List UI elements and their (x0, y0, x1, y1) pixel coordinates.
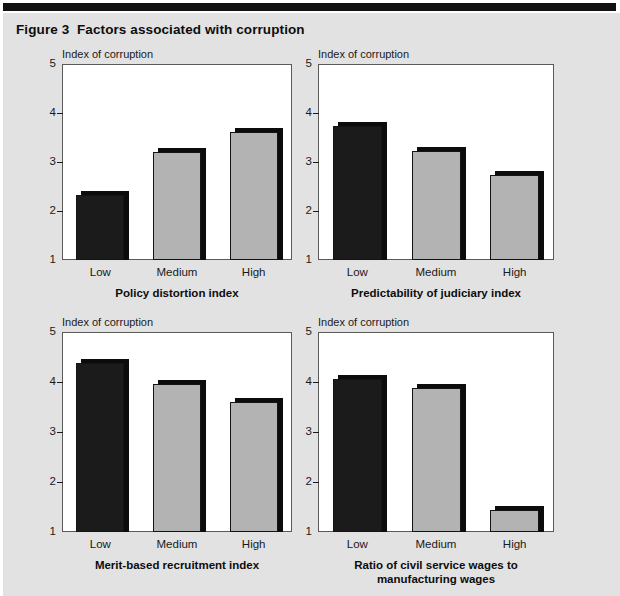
y-tick-label: 3 (290, 155, 312, 167)
y-tick-mark (313, 162, 319, 163)
figure-page: Figure 3 Factors associated with corrupt… (0, 0, 620, 596)
chart-civil-service-wage-ratio: Index of corruption12345LowMediumHighRat… (288, 316, 554, 576)
y-tick-label: 1 (290, 525, 312, 537)
y-tick-mark (57, 382, 63, 383)
x-tick-label: Low (62, 266, 139, 278)
x-tick-label: High (215, 538, 292, 550)
bar-low (76, 195, 124, 260)
x-tick-label: Low (318, 266, 397, 278)
chart-title: Merit-based recruitment index (62, 558, 292, 572)
page-title: Figure 3 Factors associated with corrupt… (16, 22, 305, 37)
y-tick-label: 4 (34, 106, 56, 118)
y-tick-mark (313, 482, 319, 483)
x-tick-label: High (475, 266, 554, 278)
y-tick-label: 3 (290, 425, 312, 437)
top-rule-divider (3, 3, 616, 11)
chart-title-line-2: manufacturing wages (318, 572, 554, 586)
y-tick-label: 2 (34, 204, 56, 216)
chart-title: Ratio of civil service wages tomanufactu… (318, 558, 554, 586)
y-tick-label: 1 (34, 525, 56, 537)
chart-merit-based-recruitment: Index of corruption12345LowMediumHighMer… (32, 316, 292, 576)
bar-high (230, 402, 278, 532)
x-tick-label: Medium (397, 266, 476, 278)
bar-medium (412, 151, 461, 260)
y-tick-mark (313, 382, 319, 383)
y-axis-label: Index of corruption (62, 48, 153, 60)
bar-medium (412, 388, 461, 532)
bar-low (333, 126, 382, 260)
x-tick-label: Low (318, 538, 397, 550)
y-tick-mark (313, 113, 319, 114)
bar-low (333, 379, 382, 533)
x-tick-label: Low (62, 538, 139, 550)
chart-title: Predictability of judiciary index (318, 286, 554, 300)
y-tick-label: 3 (34, 425, 56, 437)
chart-title: Policy distortion index (62, 286, 292, 300)
x-tick-label: High (475, 538, 554, 550)
y-axis-label: Index of corruption (318, 48, 409, 60)
x-tick-label: Medium (139, 538, 216, 550)
y-tick-mark (57, 113, 63, 114)
y-tick-label: 1 (34, 253, 56, 265)
bar-high (490, 175, 539, 260)
x-tick-label: Medium (139, 266, 216, 278)
y-tick-mark (313, 432, 319, 433)
y-axis-label: Index of corruption (318, 316, 409, 328)
y-tick-label: 2 (34, 475, 56, 487)
bar-high (490, 510, 539, 533)
y-tick-label: 5 (34, 57, 56, 69)
y-tick-label: 5 (290, 57, 312, 69)
chart-title-line-1: Ratio of civil service wages to (318, 558, 554, 572)
y-tick-label: 5 (34, 325, 56, 337)
y-tick-label: 4 (34, 375, 56, 387)
y-tick-mark (57, 432, 63, 433)
bar-high (230, 132, 278, 260)
y-tick-label: 1 (290, 253, 312, 265)
bar-low (76, 363, 124, 532)
y-tick-mark (57, 482, 63, 483)
y-tick-label: 2 (290, 475, 312, 487)
y-tick-label: 4 (290, 375, 312, 387)
x-tick-label: High (215, 266, 292, 278)
chart-predictability-judiciary: Index of corruption12345LowMediumHighPre… (288, 48, 554, 304)
y-tick-mark (57, 162, 63, 163)
y-axis-label: Index of corruption (62, 316, 153, 328)
y-tick-mark (313, 211, 319, 212)
y-tick-label: 5 (290, 325, 312, 337)
y-tick-label: 3 (34, 155, 56, 167)
bar-medium (153, 384, 201, 533)
y-tick-label: 4 (290, 106, 312, 118)
y-tick-label: 2 (290, 204, 312, 216)
bar-medium (153, 152, 201, 260)
x-tick-label: Medium (397, 538, 476, 550)
chart-policy-distortion: Index of corruption12345LowMediumHighPol… (32, 48, 292, 304)
y-tick-mark (57, 211, 63, 212)
